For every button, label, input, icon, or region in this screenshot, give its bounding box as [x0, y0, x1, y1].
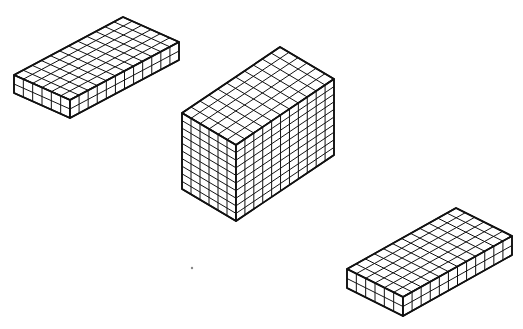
- stray-dot: [191, 267, 193, 269]
- block-center-tall: [182, 47, 334, 221]
- blocks-layer: [14, 17, 512, 316]
- block-top-left-flat: [14, 17, 179, 118]
- isometric-blocks-diagram: [0, 0, 523, 329]
- block-bottom-right-flat: [347, 208, 512, 316]
- dots-layer: [191, 267, 193, 269]
